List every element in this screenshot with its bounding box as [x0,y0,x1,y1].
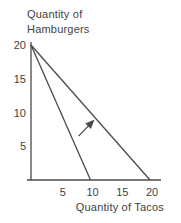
inner-frontier-line [31,45,91,180]
y-tick-label: 5 [20,140,26,152]
y-tick-label: 20 [14,39,26,51]
x-tick-label: 15 [116,186,128,198]
x-tick-label: 10 [86,186,98,198]
plot-area: 51015202015105 [0,0,181,223]
outer-frontier-line [31,45,150,180]
x-tick-label: 5 [60,186,66,198]
shift-arrow [79,121,94,137]
ppf-shift-figure: Quantity of Hamburgers 51015202015105 Qu… [0,0,181,223]
x-axis-title: Quantity of Tacos [76,201,164,213]
y-tick-label: 10 [14,107,26,119]
x-tick-label: 20 [146,186,158,198]
y-tick-label: 15 [14,73,26,85]
